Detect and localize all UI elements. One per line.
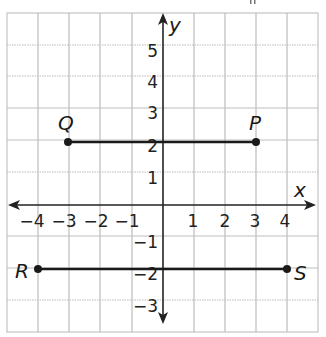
clipped-glyph-artifact [250,0,256,4]
point-label-p: P [249,111,262,135]
y-axis [158,13,168,324]
y-tick-label: 1 [147,168,158,188]
x-tick-labels: −4 −3 −2 −1 1 2 3 4 [19,211,290,231]
x-tick-label: 3 [250,211,261,231]
point-r [34,265,42,273]
y-tick-label: 5 [147,41,158,61]
point-label-q: Q [58,111,74,135]
x-axis-label: x [293,178,306,202]
x-tick-label: 1 [188,211,199,231]
coordinate-plane: x y −4 −3 −2 −1 1 2 3 4 5 4 3 2 1 −1 −2 … [0,0,326,337]
x-tick-label: −3 [51,211,76,231]
x-tick-label: −4 [19,211,44,231]
x-tick-label: 2 [220,211,231,231]
y-tick-label: 4 [147,72,158,92]
y-tick-label: 2 [147,136,158,156]
y-tick-label: 3 [147,103,158,123]
point-label-s: S [294,261,307,285]
point-q [64,138,72,146]
y-axis-label: y [168,13,182,37]
x-axis [8,200,316,210]
y-tick-label: −3 [133,296,158,316]
y-tick-label: −2 [133,264,158,284]
y-tick-label: −1 [133,232,158,252]
x-tick-label: −1 [114,211,139,231]
point-label-r: R [15,259,29,283]
y-tick-labels: 5 4 3 2 1 −1 −2 −3 [133,41,158,316]
x-tick-label: 4 [280,211,291,231]
point-s [283,265,291,273]
point-p [252,138,260,146]
x-tick-label: −2 [83,211,108,231]
